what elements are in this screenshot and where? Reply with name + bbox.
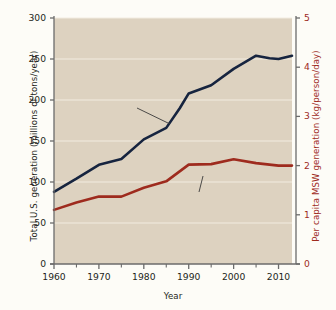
plot-area [0,0,336,310]
chart-container: Total U.S. generation (millions of tons/… [0,0,336,310]
